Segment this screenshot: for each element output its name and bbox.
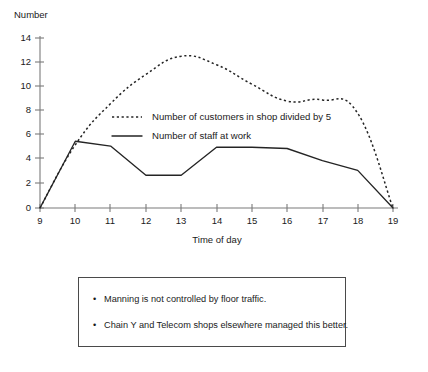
x-tick-label: 16 xyxy=(282,215,293,226)
note-item-text: Chain Y and Telecom shops elsewhere mana… xyxy=(104,320,348,330)
note-item: • Manning is not controlled by floor tra… xyxy=(93,294,345,305)
x-tick-label: 18 xyxy=(353,215,364,226)
note-item: • Chain Y and Telecom shops elsewhere ma… xyxy=(93,320,345,331)
bullet-icon: • xyxy=(93,294,96,305)
y-tick-label: 10 xyxy=(20,80,31,91)
x-tick-label: 17 xyxy=(318,215,329,226)
note-item-text: Manning is not controlled by floor traff… xyxy=(104,294,266,304)
line-chart: Number 14 12 10 8 6 4 2 0 xyxy=(0,0,428,250)
x-tick-label: 19 xyxy=(388,215,399,226)
x-axis-title: Time of day xyxy=(192,234,242,245)
y-tick-label: 12 xyxy=(20,56,31,67)
y-tick-label: 4 xyxy=(26,152,31,163)
x-axis-tick-labels: 9 10 11 12 13 14 15 16 17 18 19 xyxy=(37,215,398,226)
legend-label-customers: Number of customers in shop divided by 5 xyxy=(152,111,331,122)
y-tick-label: 0 xyxy=(26,202,31,213)
y-tick-label: 2 xyxy=(26,177,31,188)
notes-panel: • Manning is not controlled by floor tra… xyxy=(78,277,346,347)
legend-label-staff: Number of staff at work xyxy=(152,130,251,141)
notes-list: • Manning is not controlled by floor tra… xyxy=(79,278,345,331)
y-tick-label: 6 xyxy=(26,128,31,139)
x-tick-label: 13 xyxy=(176,215,187,226)
y-axis-tick-labels: 14 12 10 8 6 4 2 0 xyxy=(20,32,31,213)
x-tick-label: 15 xyxy=(247,215,258,226)
y-tick-label: 8 xyxy=(26,104,31,115)
chart-container: Number 14 12 10 8 6 4 2 0 xyxy=(0,0,428,250)
chart-legend: Number of customers in shop divided by 5… xyxy=(112,111,331,141)
x-tick-label: 12 xyxy=(141,215,152,226)
bullet-icon: • xyxy=(93,320,96,331)
x-tick-label: 14 xyxy=(212,215,223,226)
x-tick-label: 9 xyxy=(37,215,42,226)
series-line-staff xyxy=(40,141,393,208)
y-tick-label: 14 xyxy=(20,32,31,43)
x-tick-label: 10 xyxy=(70,215,81,226)
y-axis-title: Number xyxy=(14,9,48,20)
x-tick-label: 11 xyxy=(105,215,115,226)
